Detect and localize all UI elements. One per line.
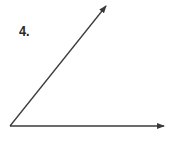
diagonal-ray [10, 6, 106, 126]
angle-diagram [0, 0, 172, 145]
